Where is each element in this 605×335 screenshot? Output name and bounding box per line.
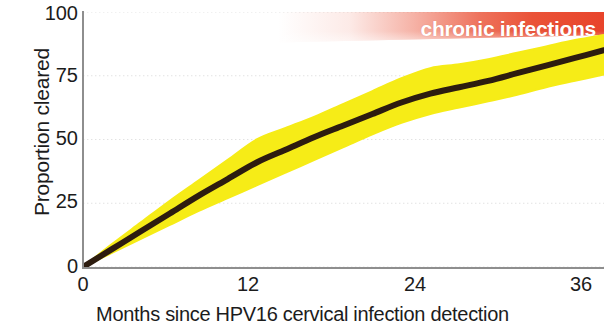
y-tick-100: 100 xyxy=(34,2,78,25)
chronic-infections-region xyxy=(277,12,604,43)
plot-area xyxy=(83,12,604,267)
y-tick-50: 50 xyxy=(34,127,78,150)
y-axis-line xyxy=(82,11,84,268)
y-tick-25: 25 xyxy=(34,190,78,213)
chart-canvas xyxy=(83,12,604,267)
x-tick-0: 0 xyxy=(53,273,113,296)
y-tick-75: 75 xyxy=(34,64,78,87)
x-tick-24: 24 xyxy=(385,273,445,296)
x-axis-title: Months since HPV16 cervical infection de… xyxy=(0,303,605,326)
x-axis-tick-labels: 0 12 24 36 xyxy=(0,273,605,301)
x-axis-line xyxy=(82,267,604,269)
x-tick-36: 36 xyxy=(551,273,605,296)
x-tick-12: 12 xyxy=(218,273,278,296)
chart-figure: Proportion cleared 100 75 50 25 0 xyxy=(0,0,605,335)
